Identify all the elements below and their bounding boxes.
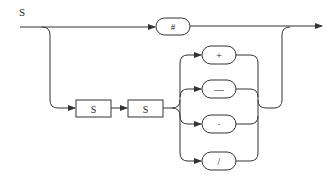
svg-text:/: / <box>218 156 221 167</box>
svg-text:—: — <box>213 84 225 95</box>
railroad-diagram: S # S <box>0 0 334 175</box>
nonterminal-box-s-2: S <box>128 100 163 117</box>
terminal-hash: # <box>156 18 190 35</box>
connector-lines <box>20 26 322 161</box>
diagram-title: S <box>19 6 25 18</box>
terminal-plus: + <box>202 46 236 64</box>
svg-text:S: S <box>143 104 149 115</box>
svg-text:S: S <box>91 104 97 115</box>
terminal-slash: / <box>202 152 236 170</box>
svg-text:+: + <box>216 50 222 61</box>
terminal-dot: · <box>202 115 236 133</box>
svg-text:·: · <box>217 119 220 130</box>
nonterminal-box-s-1: S <box>76 100 111 117</box>
svg-text:#: # <box>171 22 176 32</box>
terminal-minus: — <box>202 80 236 98</box>
